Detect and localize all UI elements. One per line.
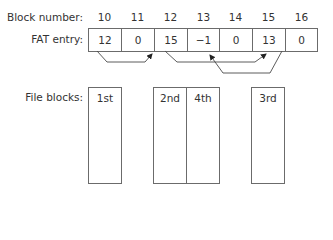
- file-block-1st: 1st: [88, 87, 122, 184]
- file-block-3rd: 3rd: [251, 87, 285, 184]
- file-block-4th: 4th: [186, 87, 220, 184]
- arrow-12-to-15: [165, 51, 266, 62]
- file-block-2nd: 2nd: [153, 87, 187, 184]
- arrow-10-to-12: [97, 51, 152, 62]
